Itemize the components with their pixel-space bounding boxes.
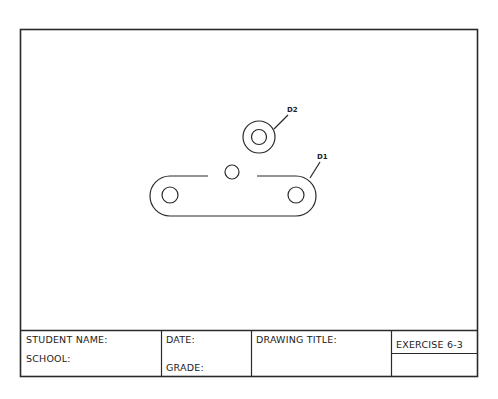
school-label: SCHOOL: — [26, 353, 71, 364]
sheet-border — [21, 30, 478, 377]
exercise-label: EXERCISE 6-3 — [396, 339, 463, 350]
left-hole — [162, 187, 178, 203]
d2-callout-label: D2 — [287, 106, 298, 114]
center-circle — [225, 165, 239, 179]
drawing-geometry — [150, 115, 320, 216]
d2-outer-circle — [243, 121, 275, 153]
slot-outline — [150, 176, 316, 216]
d2-leader-line — [274, 115, 288, 129]
student-name-label: STUDENT NAME: — [26, 334, 108, 345]
d2-inner-circle — [252, 130, 267, 145]
date-label: DATE: — [166, 334, 195, 345]
grade-label: GRADE: — [166, 362, 204, 373]
title-block: STUDENT NAME: SCHOOL: DATE: GRADE: DRAWI… — [21, 331, 478, 377]
d1-leader-line — [310, 162, 320, 178]
drawing-sheet: STUDENT NAME: SCHOOL: DATE: GRADE: DRAWI… — [0, 0, 498, 399]
d1-callout-label: D1 — [317, 153, 328, 161]
right-hole — [288, 187, 304, 203]
drawing-title-label: DRAWING TITLE: — [256, 334, 337, 345]
